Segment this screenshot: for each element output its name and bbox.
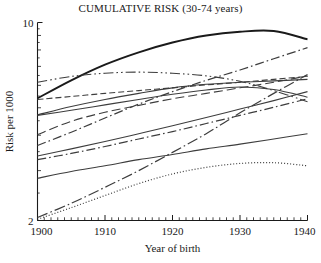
x-tick-label: 1900 xyxy=(31,225,54,237)
x-tick-label: 1910 xyxy=(94,225,117,237)
x-tick-label: 1930 xyxy=(229,225,252,237)
chart-plot-area: 210 19001910192019301940 Risk per 1000 Y… xyxy=(0,0,321,263)
chart-series-series-10 xyxy=(38,134,308,179)
y-tick-label: 10 xyxy=(23,17,35,29)
chart-series-series-3 xyxy=(38,48,308,146)
x-axis-label: Year of birth xyxy=(145,242,201,254)
chart-series-series-8 xyxy=(38,99,308,160)
y-axis-label: Risk per 1000 xyxy=(3,90,15,152)
x-axis-tick-labels: 19001910192019301940 xyxy=(31,225,317,237)
x-tick-label: 1940 xyxy=(294,225,317,237)
x-axis-ticks xyxy=(38,215,308,221)
y-axis-tick-labels: 210 xyxy=(23,17,35,227)
chart-series-series-12 xyxy=(38,163,308,220)
chart-series-series-9 xyxy=(38,92,308,156)
y-axis-ticks xyxy=(38,23,43,221)
chart-container: CUMULATIVE RISK (30-74 years) 210 190019… xyxy=(0,0,321,263)
x-tick-label: 1920 xyxy=(162,225,185,237)
chart-series-group xyxy=(38,30,308,219)
